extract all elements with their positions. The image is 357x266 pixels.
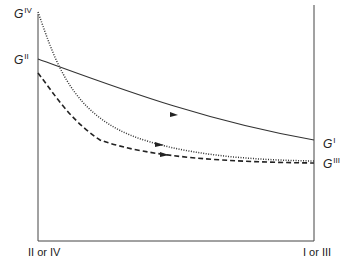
dotted-curve <box>38 12 314 161</box>
axis-label-left: II or IV <box>28 246 60 258</box>
dashed-curve <box>38 73 314 163</box>
diagram-canvas <box>0 0 357 266</box>
label-g-iii: GIII <box>323 158 340 170</box>
arrow-icon <box>170 112 178 117</box>
solid-curve <box>38 59 314 140</box>
label-g-ii: GII <box>14 54 29 66</box>
arrow-icon <box>155 142 164 147</box>
label-g-i: GI <box>323 138 336 150</box>
axis-label-right: I or III <box>303 246 331 258</box>
label-g-iv: GIV <box>14 8 32 20</box>
